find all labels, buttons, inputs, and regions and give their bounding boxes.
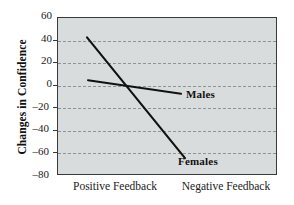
gridline	[58, 41, 276, 42]
gridline	[58, 153, 276, 154]
series-label-females: Females	[178, 155, 218, 167]
y-tick-label: –40	[23, 123, 49, 133]
y-tick-label: 0	[26, 78, 52, 88]
gridline	[58, 86, 276, 87]
series-label-males: Males	[186, 88, 215, 100]
gridline	[58, 131, 276, 132]
gridline	[58, 63, 276, 64]
y-tick-label: –80	[23, 169, 49, 179]
chart-figure: Changes in Confidence 60 40 20 0 –20 –40…	[0, 0, 294, 205]
plot-gridlines	[58, 18, 276, 174]
y-tick-label: 20	[26, 55, 52, 65]
plot-area	[57, 17, 277, 175]
y-tick-label: 40	[26, 33, 52, 43]
gridline	[58, 108, 276, 109]
y-tick-label: –60	[23, 146, 49, 156]
x-tick-label-positive-feedback: Positive Feedback	[73, 180, 157, 192]
y-tick-label: 60	[26, 10, 52, 20]
y-tick-label: –20	[23, 101, 49, 111]
x-tick-label-negative-feedback: Negative Feedback	[182, 180, 270, 192]
